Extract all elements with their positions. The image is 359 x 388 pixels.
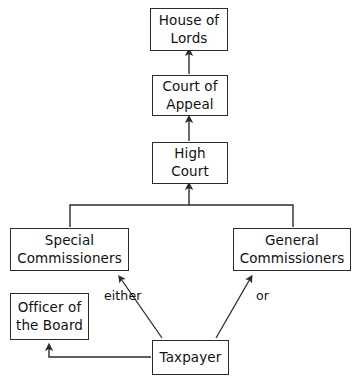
node-general-commissioners-line1: General <box>265 232 319 250</box>
edge-taxpayer-to-officer-of-the-board <box>49 348 151 357</box>
node-officer-of-the-board-line1: Officer of <box>18 299 81 317</box>
diagram-canvas: House of Lords Court of Appeal High Cour… <box>0 0 359 388</box>
node-court-of-appeal-line1: Court of <box>162 78 217 96</box>
node-court-of-appeal-line2: Appeal <box>166 96 213 114</box>
node-house-of-lords-line2: Lords <box>171 30 208 48</box>
node-court-of-appeal[interactable]: Court of Appeal <box>152 75 228 116</box>
edge-label-or: or <box>256 288 269 303</box>
node-special-commissioners-line2: Commissioners <box>17 250 122 268</box>
node-officer-of-the-board-line2: the Board <box>16 317 83 335</box>
edge-commissioners-to-high-court <box>70 187 293 227</box>
node-high-court[interactable]: High Court <box>152 142 228 184</box>
node-house-of-lords[interactable]: House of Lords <box>150 8 228 51</box>
node-taxpayer-line1: Taxpayer <box>160 349 222 367</box>
node-special-commissioners[interactable]: Special Commissioners <box>10 228 129 271</box>
node-general-commissioners[interactable]: General Commissioners <box>233 228 351 271</box>
node-high-court-line2: Court <box>171 163 209 181</box>
edge-label-either: either <box>104 288 141 303</box>
node-officer-of-the-board[interactable]: Officer of the Board <box>10 293 89 340</box>
node-high-court-line1: High <box>174 145 205 163</box>
node-taxpayer[interactable]: Taxpayer <box>152 340 229 375</box>
node-house-of-lords-line1: House of <box>159 12 219 30</box>
node-special-commissioners-line1: Special <box>45 232 94 250</box>
node-general-commissioners-line2: Commissioners <box>240 250 345 268</box>
edge-taxpayer-to-general-commissioners <box>216 279 250 338</box>
